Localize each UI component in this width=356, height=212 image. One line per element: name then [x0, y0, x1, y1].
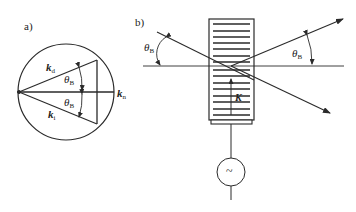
theta-b-lower-label: θB [64, 97, 74, 110]
diagram-canvas [0, 0, 356, 212]
panel-b-label: b) [135, 17, 144, 28]
angle-arc-incident [157, 37, 166, 65]
theta-b-upper-label: θB [64, 74, 74, 87]
kn-label: kn [117, 88, 126, 101]
angle-arc-upper [79, 67, 82, 90]
angle-arc-diffracted [307, 35, 312, 64]
ki-vector-line [19, 92, 97, 124]
ki-label: ki [48, 109, 55, 122]
kd-vector-line [19, 60, 97, 92]
origin-point [18, 91, 21, 94]
panel-a-label: a) [24, 21, 33, 32]
ewald-circle-diagram [18, 44, 115, 140]
kd-label: kd [46, 62, 55, 75]
ac-source-symbol: ~ [226, 165, 233, 177]
theta-b-incident-label: θB [144, 42, 154, 55]
angle-arc-lower [79, 94, 82, 117]
transducer-base [211, 120, 252, 124]
acousto-optic-diagram [143, 19, 344, 200]
k-wavevector-label: K [235, 93, 242, 103]
theta-b-diffracted-label: θB [292, 48, 302, 61]
